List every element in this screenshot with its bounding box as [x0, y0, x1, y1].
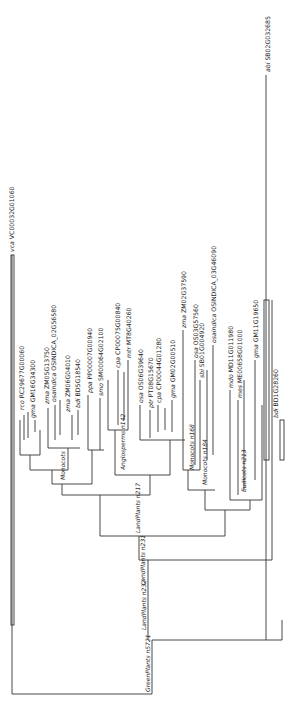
- node-label-eudicots: Eudicots n213: [240, 449, 247, 492]
- leaf-labels: vca VC00032G01060 abi SB02G032685 rco RC…: [8, 16, 279, 418]
- node-label-monocots: Monocots: [59, 451, 66, 480]
- leaf-label: cpa CP00044G01280: [155, 338, 163, 403]
- leaf-label: cpa CP00075G00840: [114, 303, 122, 368]
- leaf-label: ptr PT08G15670: [147, 357, 155, 409]
- leaf-label: zma ZM06G04010: [64, 355, 71, 413]
- leaf-label: smo SM00064G02100: [97, 327, 104, 396]
- leaf-label: ppa PP00007G00940: [86, 328, 94, 394]
- leaf-label: gma GM11G19650: [252, 300, 260, 358]
- leaf-label: osaindica OSINDICA_03G46090: [210, 246, 218, 343]
- leaf-label: mdo MD11G011980: [227, 326, 234, 388]
- node-labels: GreenPlants n5721 LandPlants n232 LandPl…: [59, 414, 247, 692]
- leaf-label: osaindica OSINDICA_02G56580: [50, 305, 58, 402]
- leaf-label: zma ZM02G37590: [180, 271, 187, 329]
- leaf-label: gma GM16G34300: [29, 360, 37, 418]
- leaf-label: rco RC29677G00060: [18, 346, 25, 410]
- node-label-monocots-n184: Monocots n184: [201, 439, 208, 485]
- leaf-label: vca VC00032G01060: [8, 186, 15, 252]
- leaf-label: bdi BD1G28260: [272, 369, 279, 418]
- leaf-label: abi SB02G032685: [264, 16, 271, 72]
- leaf-label: bdi BD5G18540: [74, 359, 81, 408]
- node-label-landplants217: LandPlants n217: [134, 483, 141, 533]
- leaf-label: sbi SB01G004920: [198, 323, 205, 378]
- node-label-greenplants: GreenPlants n5721: [144, 634, 151, 692]
- leaf-label: zma ZM05G13750: [43, 347, 50, 405]
- leaf-label: mtr MT8G40260: [125, 307, 132, 358]
- node-label-landplants231: LandPlants n231: [139, 535, 146, 585]
- phylogenetic-tree: vca VC00032G01060 abi SB02G032685 rco RC…: [0, 0, 295, 704]
- leaf-label: osa OS06G39640: [137, 349, 144, 403]
- node-label-landplants232: LandPlants n232: [140, 580, 147, 630]
- node-label-monocots-n168: Monocots n168: [188, 424, 195, 470]
- leaf-label: gma GM02G00510: [169, 340, 177, 398]
- node-label-angiosperms: Angiosperms n142: [119, 414, 127, 471]
- leaf-label: mes ME00658G01000: [236, 329, 243, 398]
